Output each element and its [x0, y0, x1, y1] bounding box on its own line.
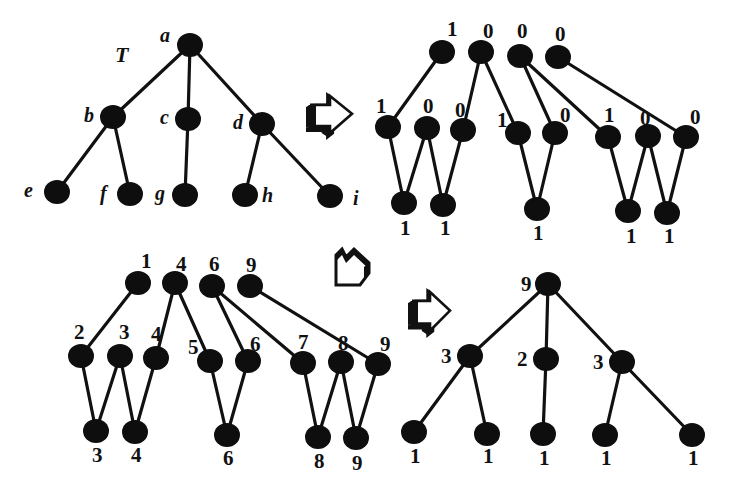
tree-node — [343, 426, 369, 450]
tree-node — [305, 425, 331, 449]
node-label: g — [154, 182, 165, 205]
node-label: 1 — [483, 444, 494, 468]
arrow-2-icon — [336, 249, 369, 285]
tree-node — [177, 33, 203, 57]
node-label: b — [84, 104, 94, 126]
tree-node — [100, 105, 126, 129]
tree-node — [214, 423, 240, 447]
node-label: 1 — [410, 444, 421, 468]
tree-node — [44, 180, 70, 204]
panel-subtree-sizes-labels: 932311111 — [410, 272, 699, 470]
edge — [622, 362, 692, 435]
node-label: 0 — [483, 19, 494, 43]
node-label: 4 — [131, 443, 142, 467]
edge — [388, 52, 442, 127]
tree-node — [457, 344, 483, 368]
tree-node — [83, 419, 109, 443]
tree-node — [474, 422, 500, 446]
node-label: i — [353, 187, 359, 209]
node-label: 1 — [400, 216, 411, 240]
tree-node — [143, 346, 169, 370]
node-label: 1 — [497, 108, 508, 132]
tree-node — [414, 116, 440, 140]
edge — [548, 284, 622, 362]
tree-node — [592, 423, 618, 447]
edge — [57, 117, 113, 192]
tree-node — [197, 349, 223, 373]
node-label: a — [160, 24, 170, 46]
tree-node — [429, 40, 455, 64]
panel-binary-marks-nodes — [375, 40, 699, 225]
tree-node — [249, 112, 275, 136]
node-label: 0 — [423, 94, 434, 118]
node-label: 1 — [376, 94, 387, 118]
tree-node — [199, 274, 225, 298]
tree-node — [524, 197, 550, 221]
tree-node — [125, 271, 151, 295]
node-label: 1 — [533, 221, 544, 245]
node-label: 1 — [440, 216, 451, 240]
tree-title: T — [115, 42, 130, 67]
node-label: 0 — [455, 98, 466, 122]
tree-node — [533, 347, 559, 371]
node-label: 1 — [604, 103, 615, 127]
node-label: 6 — [223, 446, 234, 470]
labels-layer: abcdefghiT100010010100111111469234567893… — [24, 17, 701, 475]
node-label: 2 — [517, 347, 528, 371]
node-label: 0 — [517, 19, 528, 43]
node-label: h — [262, 184, 273, 206]
arrow-3-icon — [408, 291, 450, 335]
tree-node — [317, 184, 343, 208]
tree-node — [401, 420, 427, 444]
tree-node — [530, 422, 556, 446]
tree-node — [375, 115, 401, 139]
node-label: 3 — [92, 443, 103, 467]
node-label: 1 — [447, 17, 458, 41]
node-label: 1 — [626, 224, 637, 248]
node-label: 1 — [539, 446, 550, 470]
node-label: d — [233, 111, 244, 133]
tree-node — [107, 344, 133, 368]
tree-node — [545, 45, 571, 69]
tree-node — [172, 183, 198, 207]
node-label: 6 — [250, 332, 261, 356]
arrow-1-icon — [306, 95, 352, 137]
tree-node — [122, 420, 148, 444]
diagram-canvas: abcdefghiT100010010100111111469234567893… — [0, 0, 737, 488]
node-label: e — [24, 179, 33, 201]
tree-node — [237, 274, 263, 298]
tree-node — [505, 121, 531, 145]
tree-node — [679, 423, 705, 447]
edge — [558, 57, 686, 137]
edge — [520, 56, 555, 133]
node-label: 0 — [560, 103, 571, 127]
node-label: 8 — [314, 449, 325, 473]
tree-node — [290, 351, 316, 375]
tree-node — [468, 40, 494, 64]
nodes-layer — [44, 33, 705, 450]
node-label: 1 — [141, 249, 152, 273]
tree-node — [507, 44, 533, 68]
node-label: 9 — [246, 253, 257, 277]
node-label: 9 — [380, 332, 391, 356]
tree-node — [68, 344, 94, 368]
node-label: 4 — [176, 252, 187, 276]
node-label: 3 — [119, 320, 130, 344]
node-label: 0 — [690, 105, 701, 129]
node-label: 3 — [441, 344, 452, 368]
node-label: 1 — [688, 446, 699, 470]
node-label: 9 — [521, 272, 532, 296]
tree-node — [175, 107, 201, 131]
node-label: 6 — [209, 252, 220, 276]
tree-node — [654, 201, 680, 225]
node-label: 9 — [352, 451, 363, 475]
edge — [190, 45, 262, 124]
tree-node — [615, 199, 641, 223]
node-label: 5 — [188, 335, 199, 359]
node-label: 2 — [74, 320, 85, 344]
node-label: 0 — [555, 22, 566, 46]
node-label: 3 — [593, 350, 604, 374]
tree-node — [609, 350, 635, 374]
tree-node — [430, 193, 456, 217]
edge — [250, 286, 378, 364]
